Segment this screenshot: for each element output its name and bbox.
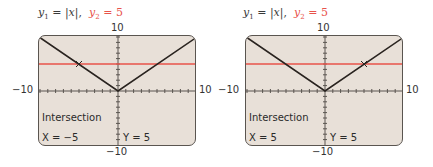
intersection-x-value: X = 5 xyxy=(249,132,277,143)
graph-panel-right: y1 = |x|, y2 = 5 10 −10 10 −10 Intersect… xyxy=(216,0,432,167)
xmin-label: −10 xyxy=(12,84,33,95)
calculator-screen: Intersection X = −5 Y = 5 xyxy=(38,35,196,146)
intersection-x-value: X = −5 xyxy=(42,132,78,143)
ymax-label: 10 xyxy=(317,22,330,33)
graph-panel-left: y1 = |x|, y2 = 5 10 −10 10 −10 Intersect… xyxy=(0,0,216,167)
xmin-label: −10 xyxy=(218,84,239,95)
intersection-y-value: Y = 5 xyxy=(330,132,357,143)
graph-plot xyxy=(246,36,403,146)
graph-plot xyxy=(39,36,196,146)
xmax-label: 10 xyxy=(199,84,212,95)
equation-label: y1 = |x|, y2 = 5 xyxy=(243,6,328,21)
intersection-title: Intersection xyxy=(42,112,102,123)
intersection-y-value: Y = 5 xyxy=(123,132,150,143)
ymax-label: 10 xyxy=(111,22,124,33)
intersection-title: Intersection xyxy=(249,112,309,123)
ymin-label: −10 xyxy=(312,146,333,157)
ymin-label: −10 xyxy=(106,146,127,157)
equation-label: y1 = |x|, y2 = 5 xyxy=(38,6,123,21)
calculator-screen: Intersection X = 5 Y = 5 xyxy=(245,35,403,146)
xmax-label: 10 xyxy=(406,84,419,95)
